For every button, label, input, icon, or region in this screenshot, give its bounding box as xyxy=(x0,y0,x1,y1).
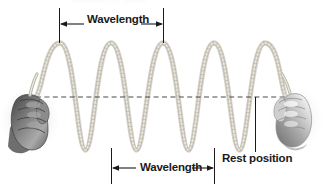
left-hand-gripping-rope-icon xyxy=(0,74,60,153)
label-wavelength-bottom: Wavelength xyxy=(140,161,202,173)
right-hand-gripping-rope-icon xyxy=(268,74,323,150)
label-wavelength-top: Wavelength xyxy=(87,13,149,25)
label-rest-position: Rest position xyxy=(222,152,292,164)
arrow-left-icon xyxy=(112,165,136,171)
arrow-left-icon xyxy=(60,21,84,27)
figure-title-remnant: Transverse wave xyxy=(70,0,147,5)
